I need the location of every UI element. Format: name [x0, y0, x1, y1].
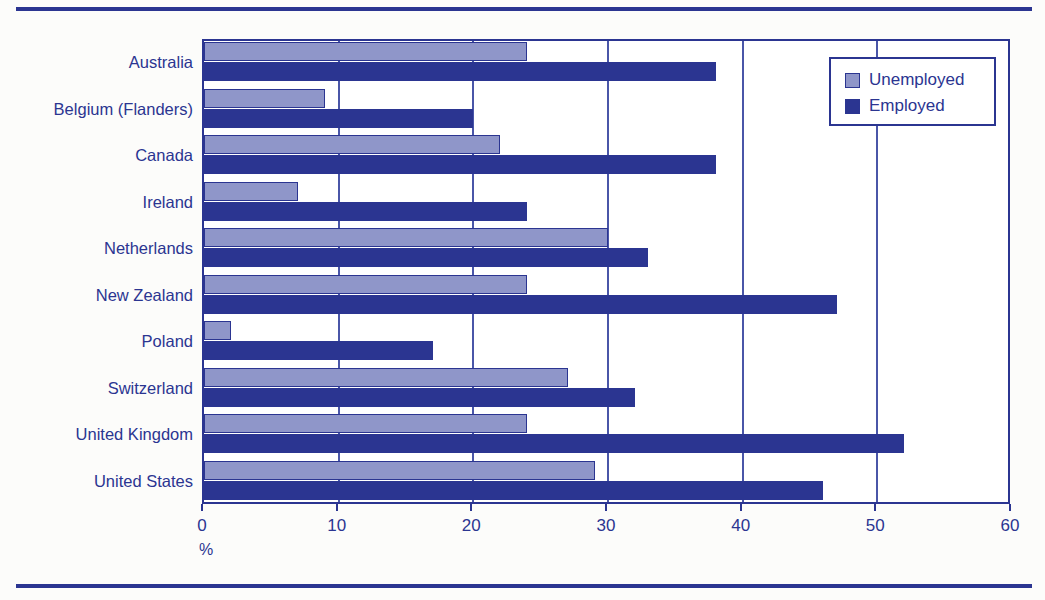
- bar-unemployed[interactable]: [204, 135, 500, 154]
- category-label: Australia: [16, 53, 202, 72]
- category-label: Ireland: [16, 192, 202, 211]
- bar-unemployed[interactable]: [204, 368, 568, 387]
- category-label: Canada: [16, 146, 202, 165]
- axis-tick: [1009, 504, 1011, 511]
- bar-group: [204, 460, 1008, 507]
- axis-tick: [874, 504, 876, 511]
- bar-group: [204, 274, 1008, 321]
- legend-label-unemployed: Unemployed: [869, 70, 964, 90]
- bar-unemployed[interactable]: [204, 321, 231, 340]
- top-rule: [16, 7, 1032, 11]
- axis-tick-label: 30: [597, 516, 616, 536]
- bottom-rule: [16, 584, 1032, 588]
- legend: Unemployed Employed: [829, 57, 996, 126]
- legend-item-unemployed[interactable]: Unemployed: [845, 67, 994, 93]
- bar-employed[interactable]: [204, 155, 716, 174]
- bar-unemployed[interactable]: [204, 461, 595, 480]
- bar-employed[interactable]: [204, 481, 823, 500]
- category-label: Poland: [16, 332, 202, 351]
- axis-tick-label: 50: [866, 516, 885, 536]
- bar-group: [204, 320, 1008, 367]
- category-label: United States: [16, 471, 202, 490]
- category-label: Netherlands: [16, 239, 202, 258]
- category-label: New Zealand: [16, 285, 202, 304]
- bar-employed[interactable]: [204, 341, 433, 360]
- axis-tick-label: 20: [462, 516, 481, 536]
- category-label: United Kingdom: [16, 425, 202, 444]
- legend-item-employed[interactable]: Employed: [845, 93, 994, 119]
- bar-unemployed[interactable]: [204, 89, 325, 108]
- axis-unit-label: %: [199, 541, 213, 559]
- bar-employed[interactable]: [204, 295, 837, 314]
- bar-unemployed[interactable]: [204, 414, 527, 433]
- category-axis-labels: AustraliaBelgium (Flanders)CanadaIreland…: [0, 39, 202, 504]
- bar-unemployed[interactable]: [204, 228, 608, 247]
- legend-swatch-unemployed-icon: [845, 73, 860, 88]
- axis-tick-label: 0: [197, 516, 206, 536]
- category-label: Switzerland: [16, 378, 202, 397]
- axis-tick-label: 40: [731, 516, 750, 536]
- axis-tick: [470, 504, 472, 511]
- bar-group: [204, 134, 1008, 181]
- bar-group: [204, 367, 1008, 414]
- axis-tick-label: 10: [327, 516, 346, 536]
- bar-unemployed[interactable]: [204, 182, 298, 201]
- value-axis: 0102030405060: [202, 504, 1010, 564]
- legend-swatch-employed-icon: [845, 99, 860, 114]
- bar-group: [204, 181, 1008, 228]
- axis-tick-label: 60: [1001, 516, 1020, 536]
- category-label: Belgium (Flanders): [16, 99, 202, 118]
- axis-tick: [605, 504, 607, 511]
- bar-employed[interactable]: [204, 248, 648, 267]
- bar-employed[interactable]: [204, 434, 904, 453]
- bar-employed[interactable]: [204, 202, 527, 221]
- bar-group: [204, 227, 1008, 274]
- axis-tick: [740, 504, 742, 511]
- axis-tick: [201, 504, 203, 511]
- bar-unemployed[interactable]: [204, 275, 527, 294]
- bar-unemployed[interactable]: [204, 42, 527, 61]
- bar-employed[interactable]: [204, 62, 716, 81]
- bar-employed[interactable]: [204, 388, 635, 407]
- legend-label-employed: Employed: [869, 96, 945, 116]
- chart-page: AustraliaBelgium (Flanders)CanadaIreland…: [0, 0, 1045, 600]
- bar-group: [204, 413, 1008, 460]
- axis-tick: [336, 504, 338, 511]
- bar-employed[interactable]: [204, 109, 473, 128]
